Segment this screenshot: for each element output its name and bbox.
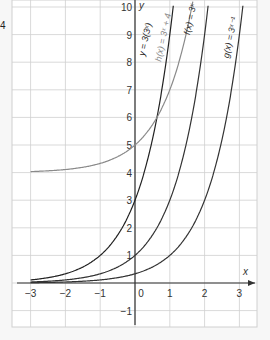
x-tick-label: −3 bbox=[25, 288, 37, 299]
y-tick-label: −1 bbox=[121, 306, 133, 317]
y-tick-label: 4 bbox=[126, 168, 132, 179]
x-tick-label: 1 bbox=[167, 288, 173, 299]
x-tick-label: −2 bbox=[60, 288, 72, 299]
y-tick-label: 3 bbox=[126, 195, 132, 206]
y-axis-label: y bbox=[138, 0, 145, 11]
y-tick-label: 2 bbox=[126, 223, 132, 234]
y-tick-label: 7 bbox=[126, 85, 132, 96]
y-tick-label: 8 bbox=[126, 57, 132, 68]
exponential-graph: −3−2−10123−112345678910xyy = 3(3ˣ)h(x) =… bbox=[0, 0, 270, 340]
x-tick-label: 3 bbox=[237, 288, 243, 299]
y-tick-label: 9 bbox=[126, 30, 132, 41]
y-tick-label: 10 bbox=[121, 2, 133, 13]
x-tick-label: 0 bbox=[138, 288, 144, 299]
x-tick-label: −1 bbox=[94, 288, 106, 299]
x-axis-label: x bbox=[242, 266, 249, 277]
x-tick-label: 2 bbox=[202, 288, 208, 299]
y-tick-label: 6 bbox=[126, 112, 132, 123]
